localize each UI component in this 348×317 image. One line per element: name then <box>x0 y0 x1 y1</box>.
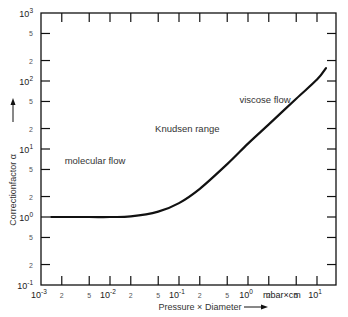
y-minor-tick-label: 2 <box>29 126 33 133</box>
y-minor-tick-label: 5 <box>29 234 33 241</box>
arrow-head-icon <box>261 305 268 310</box>
y-minor-tick-label: 5 <box>29 98 33 105</box>
x-axis-title: Pressure × Diameter <box>159 302 268 312</box>
y-minor-tick-label: 5 <box>29 30 33 37</box>
y-major-tick-label: 102 <box>19 75 33 87</box>
x-minor-tick-label: 5 <box>225 292 229 299</box>
x-minor-tick-label: 2 <box>60 292 64 299</box>
x-unit-label: mbar×cm <box>263 290 301 300</box>
x-major-tick-label: 10-2 <box>100 288 116 300</box>
y-major-tick-label: 103 <box>19 7 33 19</box>
plot-border <box>41 13 336 285</box>
y-major-tick-label: 101 <box>19 143 33 155</box>
axis-ticks <box>41 13 336 285</box>
x-major-tick-label: 101 <box>308 288 322 300</box>
region-label: molecular flow <box>65 155 126 166</box>
region-label: Knudsen range <box>155 123 219 134</box>
x-major-tick-label: 100 <box>239 288 253 300</box>
y-major-tick-label: 100 <box>19 211 33 223</box>
y-minor-tick-label: 2 <box>29 262 33 269</box>
x-minor-tick-label: 2 <box>198 292 202 299</box>
data-series-line <box>51 68 326 217</box>
region-annotations: molecular flowKnudsen rangeviscose flow <box>65 94 291 166</box>
x-minor-tick-label: 5 <box>87 292 91 299</box>
region-label: viscose flow <box>239 94 290 105</box>
x-minor-tick-label: 2 <box>129 292 133 299</box>
y-minor-tick-label: 2 <box>29 194 33 201</box>
y-minor-tick-label: 5 <box>29 166 33 173</box>
x-axis-title-text: Pressure × Diameter <box>159 302 242 312</box>
y-axis-title-text: Correctionfactor α <box>8 154 18 226</box>
axis-tick-labels: 10-32510-22510-12510025101mbar×cm10-1251… <box>17 7 322 300</box>
x-major-tick-label: 10-1 <box>169 288 185 300</box>
x-major-tick-label: 10-3 <box>31 288 47 300</box>
plot-frame <box>41 13 336 285</box>
y-axis-title: Correctionfactor α <box>8 98 18 226</box>
x-minor-tick-label: 5 <box>156 292 160 299</box>
y-minor-tick-label: 2 <box>29 58 33 65</box>
chart: 10-32510-22510-12510025101mbar×cm10-1251… <box>0 0 348 317</box>
arrow-head-icon <box>11 98 16 105</box>
